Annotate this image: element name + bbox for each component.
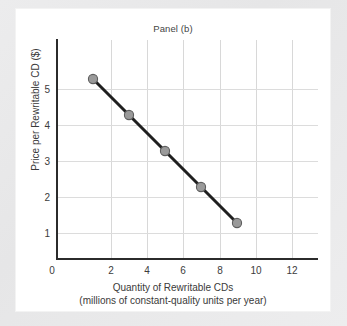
data-point-2-5 [88, 74, 97, 83]
data-point-4-4 [124, 110, 133, 119]
data-point-8-2 [196, 182, 205, 191]
screenshot-root: Panel (b) 5 4 3 2 1 0 2 4 6 8 [0, 0, 347, 326]
data-series [16, 9, 330, 311]
data-point-10-1 [232, 218, 241, 227]
chart-card: Panel (b) 5 4 3 2 1 0 2 4 6 8 [16, 9, 330, 311]
data-point-6-3 [160, 146, 169, 155]
